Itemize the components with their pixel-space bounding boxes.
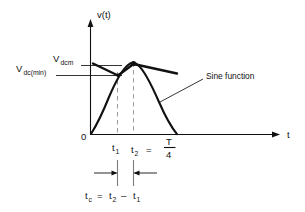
valley-dot-marker (116, 74, 119, 77)
t2-eq-equals: = (146, 144, 152, 155)
vdcm-label-main: V (53, 53, 60, 64)
vdcm-label-sub: dcm (61, 59, 74, 66)
charge-time-equation-label: t c = t 2 – t 1 (85, 190, 141, 203)
tc-equals: = (97, 190, 103, 201)
discharge-slope-right (134, 64, 178, 74)
t2-eq-numerator: T (166, 136, 172, 147)
sine-callout-leader-line (160, 79, 203, 102)
origin-label: 0 (81, 131, 86, 142)
tc-rhs-b-sub: 1 (137, 196, 141, 203)
tc-rhs-a-sub: 2 (113, 196, 117, 203)
vdcmin-label-main: V (16, 63, 23, 74)
dimension-arrowhead-left (112, 171, 118, 176)
waveform-diagram: v(t) t 0 V dcm V dc(min) t 1 t 2 = T 4 S (0, 0, 305, 212)
vdcmin-label-sub: dc(min) (24, 69, 47, 77)
peak-dot-marker (131, 61, 136, 66)
t2-eq-lhs-sub: 2 (135, 150, 139, 157)
figure-container: v(t) t 0 V dcm V dc(min) t 1 t 2 = T 4 S (0, 0, 305, 212)
y-axis-label: v(t) (97, 9, 111, 20)
y-axis-arrowhead (88, 19, 94, 27)
charge-time-dimension-group (94, 160, 157, 186)
sine-callout-group (160, 79, 203, 102)
level-lines-group (56, 66, 122, 76)
x-axis-label: t (287, 129, 290, 140)
vdcmin-label: V dc(min) (16, 63, 46, 77)
x-axis-arrowhead (272, 132, 280, 138)
dimension-arrowhead-right (134, 171, 140, 176)
vdcm-label: V dcm (53, 53, 74, 66)
tc-lhs-sub: c (89, 196, 93, 203)
sine-function-annotation: Sine function (206, 71, 255, 81)
t2-eq-denominator: 4 (166, 149, 171, 160)
tc-minus: – (121, 190, 127, 201)
t1-tick-label: t 1 (112, 142, 120, 155)
t1-label-sub: 1 (116, 148, 120, 155)
